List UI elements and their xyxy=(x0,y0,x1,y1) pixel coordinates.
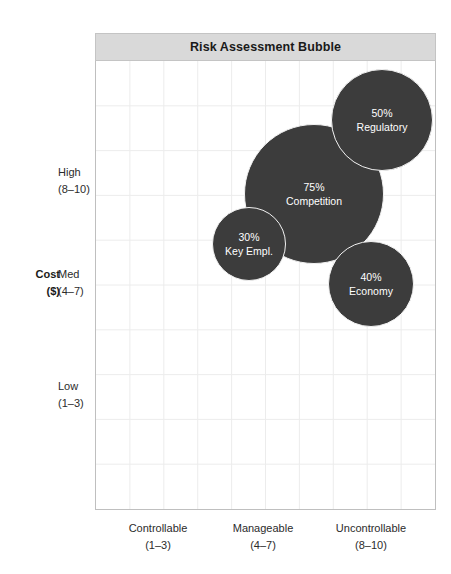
chart-title-bar: Risk Assessment Bubble xyxy=(95,33,436,61)
bubble-label: Regulatory xyxy=(357,120,408,134)
y-tick-high-range: (8–10) xyxy=(58,181,90,198)
y-tick-low-range: (1–3) xyxy=(58,395,90,412)
x-tick-manageable-range: (4–7) xyxy=(208,537,318,554)
x-tick-controllable-name: Controllable xyxy=(103,520,213,537)
y-tick-med-name: Med xyxy=(58,266,90,283)
y-tick-high-name: High xyxy=(58,164,90,181)
bubble-key-employees[interactable]: 30% Key Empl. xyxy=(212,207,286,281)
bubble-percent: 75% xyxy=(303,180,324,194)
y-axis-title-line2: ($) xyxy=(14,283,60,300)
y-tick-med: Med (4–7) xyxy=(58,266,90,299)
x-tick-controllable: Controllable (1–3) xyxy=(103,520,213,554)
y-tick-low: Low (1–3) xyxy=(58,378,90,411)
bubble-label: Competition xyxy=(286,194,342,208)
bubble-percent: 50% xyxy=(371,106,392,120)
y-tick-med-range: (4–7) xyxy=(58,283,90,300)
x-tick-manageable: Manageable (4–7) xyxy=(208,520,318,554)
chart-title: Risk Assessment Bubble xyxy=(190,40,341,54)
x-tick-controllable-range: (1–3) xyxy=(103,537,213,554)
bubble-label: Economy xyxy=(349,284,393,298)
bubble-economy[interactable]: 40% Economy xyxy=(328,241,414,327)
x-tick-uncontrollable: Uncontrollable (8–10) xyxy=(312,520,430,554)
x-tick-uncontrollable-range: (8–10) xyxy=(312,537,430,554)
bubble-percent: 30% xyxy=(238,230,259,244)
x-tick-manageable-name: Manageable xyxy=(208,520,318,537)
plot-area: 50% Regulatory 75% Competition 30% Key E… xyxy=(95,61,436,510)
y-axis-title-line1: Cost xyxy=(14,266,60,283)
bubble-regulatory[interactable]: 50% Regulatory xyxy=(331,69,433,171)
y-axis-title: Cost ($) xyxy=(14,266,60,299)
y-tick-high: High (8–10) xyxy=(58,164,90,197)
bubble-chart: Risk Assessment Bubble xyxy=(0,0,451,574)
bubble-label: Key Empl. xyxy=(225,244,273,258)
y-tick-low-name: Low xyxy=(58,378,90,395)
bubble-percent: 40% xyxy=(360,270,381,284)
x-tick-uncontrollable-name: Uncontrollable xyxy=(312,520,430,537)
